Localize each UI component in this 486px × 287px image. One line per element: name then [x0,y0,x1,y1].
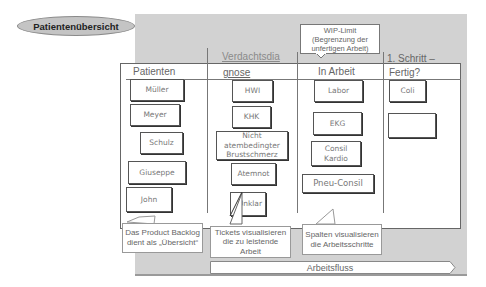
callout-spalten-text: Spalten visualisieren die Arbeitsschritt… [305,230,379,249]
column-divider-2 [297,63,298,213]
card-done-t-erhoehung[interactable] [388,113,436,138]
wip-limit-callout: WIP-Limit (Begrenzung der unfertigen Arb… [300,24,380,54]
workflow-arrow: Arbeitsfluss [210,261,456,274]
column-header-in-arbeit: In Arbeit [318,66,355,77]
callout-spalten: Spalten visualisieren die Arbeitsschritt… [302,224,382,255]
callout-product-backlog-text: Das Product Backlog dient als „Übersicht… [125,228,200,247]
patient-overview-ellipse: Patientenübersicht [17,16,135,36]
card-work-labor[interactable]: Labor [314,80,363,102]
column-divider-top-1 [207,48,208,63]
card-work-pneu-consil[interactable]: Pneu-Consil [302,174,374,193]
column-divider-top-2 [297,52,298,63]
column-header-patienten: Patienten [133,66,175,77]
callout-tickets: Tickets visualisieren die zu leistende A… [210,226,291,258]
card-diagnosis-unklar[interactable]: Unklar [230,192,266,216]
card-diagnosis-hwi[interactable]: HWI [232,80,273,102]
column-divider-1 [207,63,208,213]
callout-product-backlog: Das Product Backlog dient als „Übersicht… [122,223,203,253]
wip-limit-text: WIP-Limit (Begrenzung der unfertigen Arb… [303,26,377,53]
column-divider-3 [383,63,384,213]
card-patient-mueller[interactable]: Müller [130,79,184,101]
card-patient-giuseppe[interactable]: Giuseppe [128,161,186,184]
column-header-verdachtsdiagnose-line1: Verdachtsdia [222,51,280,62]
card-work-consil-kardio[interactable]: Consil Kardio [311,141,361,166]
card-patient-schulz[interactable]: Schulz [140,132,183,154]
patient-overview-label: Patientenübersicht [33,21,119,32]
column-divider-top-3 [383,52,384,63]
workflow-arrow-label: Arbeitsfluss [210,261,450,274]
callout-tickets-text: Tickets visualisieren die zu leistende A… [213,228,288,257]
card-work-ekg[interactable]: EKG [313,112,362,135]
card-diagnosis-atemnot[interactable]: Atemnot [231,163,276,185]
column-header-fertig-line2: Fertig? [389,67,420,78]
card-diagnosis-brustschmerz[interactable]: Nicht atembedingter Brustschmerz [216,131,288,160]
card-diagnosis-khk[interactable]: KHK [232,106,271,128]
card-patient-john[interactable]: John [126,187,172,212]
card-done-coli[interactable]: Coli [389,80,426,102]
card-patient-meyer[interactable]: Meyer [130,104,180,126]
column-header-verdachtsdiagnose-line2: gnose [223,67,250,78]
